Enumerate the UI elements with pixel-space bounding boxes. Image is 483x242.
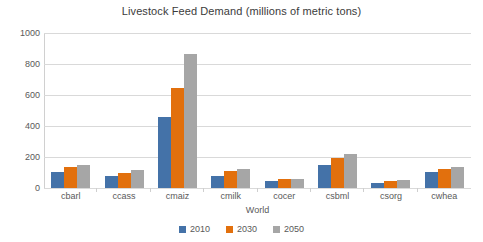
bar[interactable] (224, 171, 237, 188)
bar[interactable] (51, 172, 64, 188)
x-axis-tick-label: csorg (364, 191, 417, 201)
bar-group (418, 33, 471, 188)
x-axis-tick-label: cmaiz (151, 191, 204, 201)
chart-title: Livestock Feed Demand (millions of metri… (0, 5, 483, 17)
bar[interactable] (64, 167, 77, 188)
bar[interactable] (371, 183, 384, 188)
bar[interactable] (291, 179, 304, 188)
y-axis-tick-label: 0 (0, 183, 40, 193)
legend-swatch-icon (179, 226, 186, 233)
legend-item[interactable]: 2010 (179, 224, 210, 234)
legend-swatch-icon (226, 226, 233, 233)
bar[interactable] (118, 173, 131, 189)
y-axis-tick-label: 600 (0, 90, 40, 100)
bar-group (364, 33, 417, 188)
bar[interactable] (451, 167, 464, 188)
x-axis-tick-label: cocer (258, 191, 311, 201)
bar[interactable] (278, 179, 291, 188)
bar[interactable] (77, 165, 90, 188)
bar-groups (44, 33, 471, 188)
bar[interactable] (158, 117, 171, 188)
bar-group (97, 33, 150, 188)
x-axis-tick-label: cwhea (418, 191, 471, 201)
bar[interactable] (438, 169, 451, 188)
legend-item[interactable]: 2050 (273, 224, 304, 234)
legend-label: 2030 (237, 224, 257, 234)
legend-item[interactable]: 2030 (226, 224, 257, 234)
x-axis-tick-label: cbarl (44, 191, 97, 201)
bar[interactable] (265, 181, 278, 188)
bar[interactable] (105, 176, 118, 188)
bar[interactable] (397, 180, 410, 188)
y-axis-tick-label: 1000 (0, 28, 40, 38)
bar[interactable] (131, 170, 144, 188)
y-axis-tick-label: 400 (0, 121, 40, 131)
bar[interactable] (331, 158, 344, 188)
bar[interactable] (171, 88, 184, 188)
x-axis-tick-label: cmilk (204, 191, 257, 201)
bar-group (151, 33, 204, 188)
x-axis-tick-label: ccass (97, 191, 150, 201)
plot-area (44, 33, 471, 188)
bar-group (311, 33, 364, 188)
bar-group (258, 33, 311, 188)
legend-swatch-icon (273, 226, 280, 233)
y-axis-tick-label: 200 (0, 152, 40, 162)
legend-label: 2050 (284, 224, 304, 234)
chart-legend: 201020302050 (0, 224, 483, 234)
bar[interactable] (344, 154, 357, 188)
bar[interactable] (211, 176, 224, 188)
chart-container: Livestock Feed Demand (millions of metri… (0, 0, 483, 242)
bar[interactable] (237, 169, 250, 188)
bar-group (204, 33, 257, 188)
bar[interactable] (184, 54, 197, 188)
bar[interactable] (425, 172, 438, 188)
gridline (44, 188, 471, 189)
x-axis-title: World (44, 205, 471, 215)
y-axis-tick-label: 800 (0, 59, 40, 69)
x-axis-tick-labels: cbarlccasscmaizcmilkcocercsbmlcsorgcwhea (44, 191, 471, 201)
x-axis-tick-label: csbml (311, 191, 364, 201)
bar[interactable] (318, 165, 331, 188)
bar[interactable] (384, 181, 397, 188)
bar-group (44, 33, 97, 188)
legend-label: 2010 (190, 224, 210, 234)
